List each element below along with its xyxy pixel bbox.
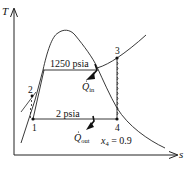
state-point-4 bbox=[115, 117, 118, 120]
state-label-3: 3 bbox=[115, 46, 120, 56]
x-axis-label: s bbox=[179, 148, 183, 160]
pump-line-1-2 bbox=[33, 70, 44, 119]
heat-in-label: Qin bbox=[82, 81, 95, 93]
state-label-4: 4 bbox=[115, 123, 120, 133]
state-label-2: 2 bbox=[28, 85, 33, 95]
state-point-1 bbox=[31, 117, 34, 120]
low-pressure-label: 2 psia bbox=[56, 108, 80, 119]
y-axis-label: T bbox=[2, 5, 9, 17]
tangent-line-2 bbox=[21, 92, 36, 112]
state-point-3 bbox=[115, 56, 118, 59]
ts-diagram: T s 1 2 3 4 bbox=[0, 0, 185, 172]
heat-out-label: Qout bbox=[74, 132, 90, 144]
high-pressure-label: 1250 psia bbox=[50, 58, 89, 69]
state-label-1: 1 bbox=[32, 123, 37, 133]
quality-label: x4 = 0.9 bbox=[100, 135, 132, 147]
heat-out-arrow-icon bbox=[86, 116, 94, 130]
superheat-curve bbox=[97, 35, 146, 68]
state-point-2 bbox=[31, 95, 34, 98]
heat-out-dot bbox=[78, 131, 79, 132]
heat-in-dot bbox=[86, 80, 87, 81]
axes bbox=[11, 8, 179, 159]
